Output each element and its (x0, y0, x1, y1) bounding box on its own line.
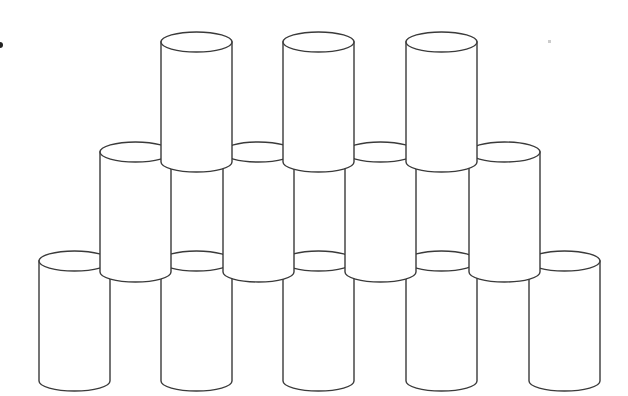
cylinder-middle-1 (100, 142, 171, 282)
cylinder-body (100, 152, 171, 282)
cylinder-top (469, 142, 540, 162)
faint-mark (548, 40, 551, 43)
cylinder-body (223, 152, 294, 282)
cylinder-middle-3 (345, 142, 416, 282)
cylinder-stack-diagram (0, 0, 628, 396)
cylinder-body (406, 42, 477, 172)
cylinder-body (529, 261, 600, 391)
cylinder-top (406, 32, 477, 52)
cylinder-middle-4 (469, 142, 540, 282)
cylinder-top (161, 32, 232, 52)
cylinder-top-3 (406, 32, 477, 172)
cylinder-body (406, 261, 477, 391)
cylinder-body (469, 152, 540, 282)
cylinder-top-1 (161, 32, 232, 172)
cylinder-body (345, 152, 416, 282)
cylinder-top (283, 32, 354, 52)
cylinder-body (283, 42, 354, 172)
cylinder-body (283, 261, 354, 391)
edge-mark (0, 42, 3, 48)
cylinder-body (161, 42, 232, 172)
cylinder-body (39, 261, 110, 391)
cylinder-body (161, 261, 232, 391)
cylinder-top-2 (283, 32, 354, 172)
